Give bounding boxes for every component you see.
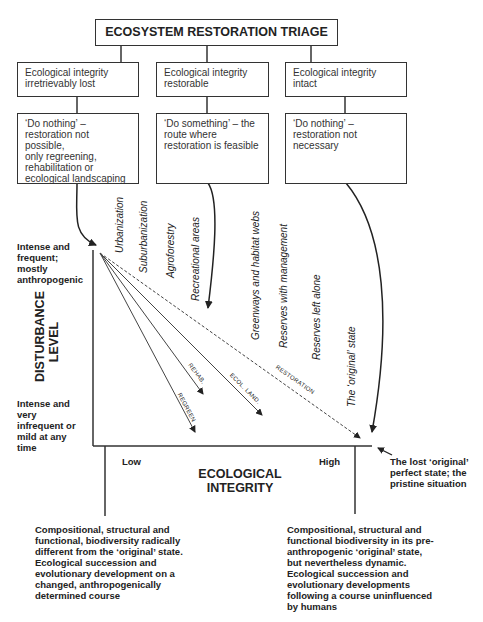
low-integrity-description: Compositional, structural and functional… (35, 524, 183, 601)
land-use-urbanization: Urbanization (114, 197, 125, 253)
axis-title-line: INTEGRITY (190, 481, 290, 495)
y-axis-top-note: Intense and frequent; mostly anthropogen… (17, 241, 83, 285)
land-use-suburbanization: Suburbanization (138, 201, 149, 273)
land-use-recreational-areas: Recreational areas (190, 217, 201, 301)
heading-line: Ecological integrity (25, 67, 131, 78)
note-line: infrequent or (17, 420, 76, 431)
note-line: anthropogenic (17, 274, 83, 285)
high-integrity-description: Compositional, structural and functional… (287, 524, 434, 612)
action-line: necessary (293, 140, 399, 151)
action-line: ecological landscaping (25, 173, 131, 184)
desc-line: Compositional, structural and (35, 524, 183, 535)
desc-line: Ecological succession and (35, 557, 183, 568)
desc-line: evolutionary developments (287, 579, 434, 590)
heading-line: irretrievably lost (25, 78, 131, 89)
heading-line: Ecological integrity (164, 67, 261, 78)
note-line: pristine situation (390, 478, 469, 489)
land-use-original-state: The ‘original’ state (346, 326, 357, 407)
land-use-greenways: Greenways and habitat webs (250, 211, 261, 340)
note-line: time (17, 442, 76, 453)
desc-line: Ecological succession and (287, 568, 434, 579)
desc-line: evolutionary development on a (35, 568, 183, 579)
x-axis-title: ECOLOGICAL INTEGRITY (190, 467, 290, 495)
diagram-title: ECOSYSTEM RESTORATION TRIAGE (95, 19, 338, 46)
category-heading-restorable: Ecological integrity restorable (156, 62, 269, 97)
x-axis-low-label: Low (122, 456, 141, 467)
note-line: mild at any (17, 431, 76, 442)
y-axis-title: DISTURBANCE LEVEL (33, 302, 61, 382)
note-line: Intense and (17, 241, 83, 252)
desc-line: functional biodiversity in its pre- (287, 535, 434, 546)
desc-line: functional, biodiversity radically (35, 535, 183, 546)
action-line: ‘Do something’ – the (164, 118, 261, 129)
action-box-restorable: ‘Do something’ – the route where restora… (156, 113, 269, 184)
desc-line: different from the ‘original’ state. (35, 546, 183, 557)
x-axis-high-label: High (319, 456, 340, 467)
action-line: only regreening, (25, 151, 131, 162)
desc-line: following a course uninfluenced (287, 590, 434, 601)
category-heading-intact: Ecological integrity intact (285, 62, 407, 97)
note-line: The lost ‘original’ (390, 456, 469, 467)
action-line: ‘Do nothing’ – (293, 118, 399, 129)
desc-line: anthropogenic ‘original’ state, (287, 546, 434, 557)
action-box-lost: ‘Do nothing’ – restoration not possible,… (17, 113, 139, 184)
y-axis-bottom-note: Intense and very infrequent or mild at a… (17, 398, 76, 453)
land-use-agroforestry: Agroforestry (165, 224, 176, 278)
axis-title-line: ECOLOGICAL (190, 467, 290, 481)
note-line: mostly (17, 263, 83, 274)
desc-line: Compositional, structural and (287, 524, 434, 535)
action-line: restoration is feasible (164, 140, 261, 151)
note-line: frequent; (17, 252, 83, 263)
action-line: route where (164, 129, 261, 140)
action-line: ‘Do nothing’ – (25, 118, 131, 129)
axis-title-line: DISTURBANCE (33, 302, 47, 382)
land-use-reserves-managed: Reserves with management (278, 224, 289, 348)
action-line: rehabilitation or (25, 162, 131, 173)
note-line: perfect state; the (390, 467, 469, 478)
axis-title-line: LEVEL (47, 302, 61, 382)
desc-line: but nevertheless dynamic. (287, 557, 434, 568)
action-line: restoration not possible, (25, 129, 131, 151)
land-use-reserves-alone: Reserves left alone (311, 274, 322, 360)
category-heading-lost: Ecological integrity irretrievably lost (17, 62, 139, 97)
pristine-state-note: The lost ‘original’ perfect state; the p… (390, 456, 469, 489)
heading-line: restorable (164, 78, 261, 89)
desc-line: determined course (35, 590, 183, 601)
desc-line: by humans (287, 601, 434, 612)
action-line: restoration not (293, 129, 399, 140)
note-line: Intense and (17, 398, 76, 409)
desc-line: changed, anthropogenically (35, 579, 183, 590)
heading-line: Ecological integrity intact (293, 67, 399, 89)
note-line: very (17, 409, 76, 420)
action-box-intact: ‘Do nothing’ – restoration not necessary (285, 113, 407, 184)
